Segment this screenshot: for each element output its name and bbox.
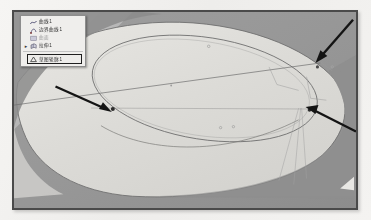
panel-item-0-bullet bbox=[24, 18, 28, 26]
panel-item-1-bullet bbox=[24, 26, 28, 34]
panel-item-3-label: 拉伸1 bbox=[39, 42, 52, 50]
sketch-profile-button-label: 草图轮廓1 bbox=[39, 56, 62, 62]
sketch-point-center[interactable] bbox=[170, 85, 172, 87]
screenshot-frame: 曲线1 边界曲线1 曲面 ▸ 拉伸1 bbox=[12, 10, 358, 210]
panel-item-0[interactable]: 曲线1 bbox=[23, 18, 83, 26]
surface-icon bbox=[30, 35, 37, 42]
property-manager-panel[interactable]: 曲线1 边界曲线1 曲面 ▸ 拉伸1 bbox=[20, 15, 86, 67]
panel-item-3[interactable]: ▸ 拉伸1 bbox=[23, 42, 83, 50]
panel-divider bbox=[23, 51, 83, 52]
curve-icon bbox=[30, 19, 37, 26]
sketch-point-icon bbox=[30, 27, 37, 34]
extrude-icon bbox=[30, 43, 37, 50]
panel-item-2-bullet bbox=[24, 34, 28, 42]
panel-item-1[interactable]: 边界曲线1 bbox=[23, 26, 83, 34]
point-left-vertex[interactable] bbox=[111, 107, 115, 111]
panel-item-3-bullet: ▸ bbox=[24, 42, 28, 50]
sketch-profile-button[interactable]: 草图轮廓1 bbox=[27, 54, 82, 64]
point-top[interactable] bbox=[316, 65, 319, 68]
measure-icon bbox=[30, 56, 37, 63]
panel-item-2[interactable]: 曲面 bbox=[23, 34, 83, 42]
